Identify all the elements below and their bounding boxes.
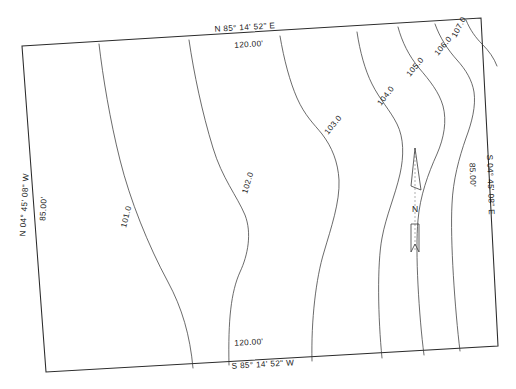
survey-plat-canvas: 101.0 102.0 103.0 104.0 105.0 106.0 107.… (0, 0, 516, 389)
bearing-label-west: N 04° 45' 08" W (18, 173, 30, 236)
contour-label-101: 101.0 (119, 205, 133, 229)
distance-label-east: 85.00' (468, 163, 478, 188)
svg-text:103.0: 103.0 (323, 114, 344, 137)
contour-line-101 (99, 44, 193, 368)
distance-label-west: 85.00' (38, 196, 48, 221)
distance-label-south: 120.00' (234, 337, 264, 348)
svg-text:85.00': 85.00' (38, 196, 48, 221)
contour-line-106 (435, 24, 475, 351)
svg-text:105.0: 105.0 (405, 56, 426, 79)
contour-label-103: 103.0 (323, 114, 344, 137)
svg-text:N 04° 45' 08" W: N 04° 45' 08" W (18, 173, 30, 236)
svg-text:107.0: 107.0 (450, 15, 468, 39)
distance-label-north: 120.00' (234, 39, 264, 50)
contour-label-105: 105.0 (405, 56, 426, 79)
contour-line-104 (357, 32, 403, 358)
svg-text:102.0: 102.0 (240, 171, 255, 195)
plat-drawing: 101.0 102.0 103.0 104.0 105.0 106.0 107.… (0, 0, 516, 389)
bearing-label-east: S 04° 45' 08" E (485, 155, 496, 216)
north-arrow: N (411, 148, 421, 252)
north-arrow-label: N (412, 204, 418, 214)
bearing-label-south: S 85° 14' 52" W (231, 358, 294, 370)
svg-text:120.00': 120.00' (234, 39, 264, 50)
north-arrow-head (411, 148, 421, 190)
contour-line-102 (189, 40, 249, 365)
contour-label-106: 106.0 (433, 35, 454, 58)
contour-label-102: 102.0 (240, 171, 255, 195)
svg-text:106.0: 106.0 (433, 35, 454, 58)
svg-text:N 85° 14' 52" E: N 85° 14' 52" E (214, 21, 275, 34)
contour-label-107: 107.0 (450, 15, 468, 39)
parcel-boundary (22, 18, 498, 372)
bearing-label-north: N 85° 14' 52" E (214, 21, 275, 34)
svg-text:101.0: 101.0 (119, 205, 133, 229)
contour-line-105 (398, 27, 445, 355)
svg-text:85.00': 85.00' (468, 163, 478, 188)
contour-line-103 (280, 36, 339, 361)
svg-text:S 04° 45' 08" E: S 04° 45' 08" E (485, 155, 496, 216)
svg-text:120.00': 120.00' (234, 337, 264, 348)
svg-text:S 85° 14' 52" W: S 85° 14' 52" W (231, 358, 294, 370)
